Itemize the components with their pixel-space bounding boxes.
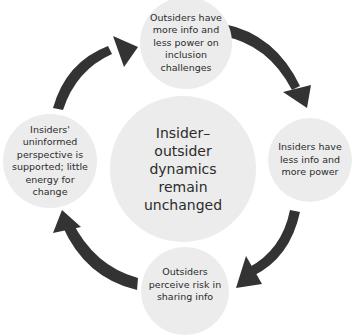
arrow-right-to-bottom-icon [236, 210, 300, 288]
arrow-top-to-right-icon [222, 24, 311, 108]
node-outsiders-perceive-risk: Outsiders perceive risk in sharing info [141, 247, 229, 335]
arrow-bottom-to-left-icon [53, 210, 138, 290]
node-insiders-perspective-supported: Insiders' uninformed perspective is supp… [3, 114, 97, 208]
center-label: Insider– outsider dynamics remain unchan… [144, 124, 222, 214]
center-node-dynamics-unchanged: Insider– outsider dynamics remain unchan… [110, 96, 256, 242]
node-outsiders-more-info: Outsiders have more info and less power … [140, 0, 232, 89]
arrow-left-to-top-icon [53, 36, 138, 110]
node-label: Outsiders have more info and less power … [148, 12, 224, 75]
node-label: Insiders' uninformed perspective is supp… [7, 124, 93, 199]
node-label: Outsiders perceive risk in sharing info [147, 266, 223, 304]
node-label: Insiders have less info and more power [274, 141, 346, 179]
node-insiders-less-info: Insiders have less info and more power [268, 118, 352, 202]
